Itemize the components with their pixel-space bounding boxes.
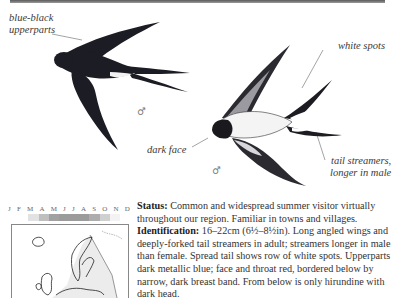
month-label: J [8,205,11,213]
status-label: Status: [137,200,168,211]
month-label: F [17,205,21,213]
status-text: Common and widespread summer visitor vir… [137,200,375,224]
male-symbol-icon: ♂ [137,106,146,117]
month-label: J [63,205,66,213]
month-presence-cell [28,214,38,221]
swallow-upperside-figure [54,22,190,150]
month-label: D [125,205,130,213]
month-label: A [39,205,44,213]
month-presence-cell [79,214,89,221]
month-presence-cell [89,214,99,221]
month-label: J [72,205,75,213]
month-presence-cell [49,214,59,221]
month-label: A [81,205,86,213]
month-label: M [27,205,33,213]
month-presence-cell [100,214,110,221]
label-tail-streamers: tail streamers, longer in male [330,155,391,179]
range-map [11,224,129,298]
label-dark-face: dark face [147,144,186,156]
month-label: S [92,205,96,213]
month-presence-cell [59,214,69,221]
month-presence-cell [110,214,120,221]
species-description: Status: Common and widespread summer vis… [137,200,395,301]
europe-map-icon [12,225,128,298]
label-line: tail streamers, [330,155,391,167]
calendar-presence-bar [8,214,130,221]
label-white-spots: white spots [338,40,385,52]
label-blue-black-upperparts: blue-black upperparts [9,12,55,36]
month-presence-cell [69,214,79,221]
identification-text: 16–22cm (6½–8½in). Long angled wings and… [137,225,390,299]
month-label: O [102,205,107,213]
label-line: longer in male [330,167,391,179]
calendar-months: J F M A M J J A S O N D [8,205,130,213]
label-line: upperparts [9,24,55,36]
identification-label: Identification: [137,225,199,236]
male-symbol-icon: ♂ [212,165,221,176]
month-label: N [114,205,119,213]
month-label: M [51,205,57,213]
swallow-underside-figure [212,45,342,186]
month-presence-cell [39,214,49,221]
label-line: blue-black [9,12,55,24]
